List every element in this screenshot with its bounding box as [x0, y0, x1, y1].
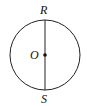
- label-r: R: [39, 3, 48, 17]
- circle-diagram: R O S: [0, 0, 87, 106]
- label-o: O: [30, 48, 39, 62]
- label-s: S: [41, 92, 47, 106]
- center-point-o: [43, 53, 47, 57]
